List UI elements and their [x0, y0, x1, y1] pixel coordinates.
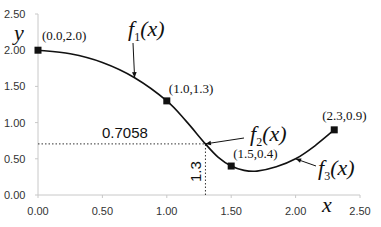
x-axis-title: x: [321, 192, 332, 217]
data-point-marker: [163, 97, 170, 104]
value-annotation: 1.3: [187, 161, 204, 182]
function-label: f2(x): [250, 121, 287, 149]
y-axis-title: y: [12, 20, 24, 45]
point-label: (2.3,0.9): [322, 108, 366, 123]
y-tick-label: 1.50: [4, 80, 25, 92]
curve-line: [38, 50, 334, 171]
point-label: (0.0,2.0): [42, 28, 86, 43]
guide-lines: [38, 144, 205, 195]
y-tick-label: 0.00: [4, 189, 25, 201]
x-tick-label: 0.00: [27, 205, 48, 217]
y-tick-label: 1.00: [4, 117, 25, 129]
x-tick-label: 2.00: [285, 205, 306, 217]
data-point-marker: [228, 163, 235, 170]
point-label: (1.0,1.3): [169, 81, 213, 96]
x-tick-label: 2.50: [349, 205, 370, 217]
label-arrows: [132, 43, 316, 166]
data-point-marker: [35, 47, 42, 54]
arrow-head-icon: [296, 158, 302, 162]
y-tick-label: 2.50: [4, 8, 25, 20]
data-point-marker: [331, 126, 338, 133]
value-annotation: 0.7058: [102, 124, 148, 141]
x-tick-label: 0.50: [92, 205, 113, 217]
y-tick-label: 0.50: [4, 153, 25, 165]
y-tick-label: 2.00: [4, 44, 25, 56]
function-label: f3(x): [318, 155, 355, 183]
label-arrow: [205, 138, 244, 144]
data-markers: [35, 47, 338, 170]
chart: 0.000.501.001.502.002.500.000.501.001.50…: [0, 0, 381, 227]
x-tick-label: 1.00: [156, 205, 177, 217]
annotations: (0.0,2.0)(1.0,1.3)(1.5,0.4)(2.3,0.9)0.70…: [42, 16, 367, 183]
function-label: f1(x): [128, 16, 165, 44]
x-tick-label: 1.50: [220, 205, 241, 217]
